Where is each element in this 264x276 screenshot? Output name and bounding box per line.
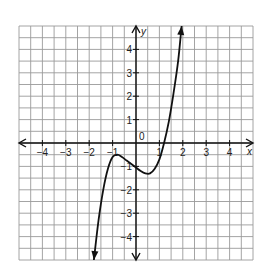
y-tick-label: 1	[126, 115, 132, 126]
x-tick-label: 3	[203, 147, 209, 158]
x-tick-label: 0	[139, 131, 145, 142]
y-tick-label: 3	[126, 68, 132, 79]
x-axis-name: x	[246, 146, 253, 157]
x-tick-label: −4	[37, 147, 49, 158]
y-tick-label: −2	[121, 185, 133, 196]
x-tick-label: 4	[227, 147, 233, 158]
tick-labels: −4−3−2−101234−4−3−2−11234xy	[37, 26, 253, 243]
y-tick-label: 2	[126, 91, 132, 102]
x-tick-label: −3	[60, 147, 72, 158]
y-axis-name: y	[140, 26, 147, 37]
x-tick-label: 2	[180, 147, 186, 158]
y-tick-label: −4	[121, 232, 133, 243]
y-tick-label: −3	[121, 208, 133, 219]
x-tick-label: −2	[83, 147, 95, 158]
function-graph: −4−3−2−101234−4−3−2−11234xy	[0, 0, 264, 276]
y-tick-label: 4	[126, 44, 132, 55]
